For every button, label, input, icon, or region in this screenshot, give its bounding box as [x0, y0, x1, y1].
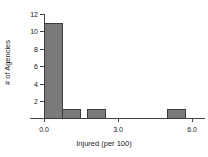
x-tick-label-0: 0.0 — [29, 126, 59, 133]
y-tick-label-6: 6 — [20, 63, 38, 70]
histogram-bar — [44, 23, 63, 119]
y-tick-label-10: 10 — [20, 28, 38, 35]
histogram-bar — [87, 109, 106, 119]
histogram-figure: 2 4 6 8 10 12 0.0 3.0 6.0 Injured (per 1… — [0, 0, 208, 157]
x-axis-title: Injured (per 100) — [0, 139, 208, 148]
histogram-bar — [167, 109, 186, 119]
y-tick-label-8: 8 — [20, 46, 38, 53]
y-tick-label-4: 4 — [20, 81, 38, 88]
x-tick-mark-6 — [192, 118, 193, 122]
y-tick-mark-12 — [40, 14, 44, 15]
y-axis-title: # of Agencies — [3, 23, 12, 103]
x-tick-label-6: 6.0 — [177, 126, 207, 133]
y-tick-label-12: 12 — [20, 11, 38, 18]
y-tick-label-2: 2 — [20, 98, 38, 105]
histogram-bar — [62, 109, 81, 119]
x-tick-mark-3 — [118, 118, 119, 122]
x-tick-label-3: 3.0 — [103, 126, 133, 133]
plot-area: 2 4 6 8 10 12 0.0 3.0 6.0 Injured (per 1… — [0, 0, 208, 157]
